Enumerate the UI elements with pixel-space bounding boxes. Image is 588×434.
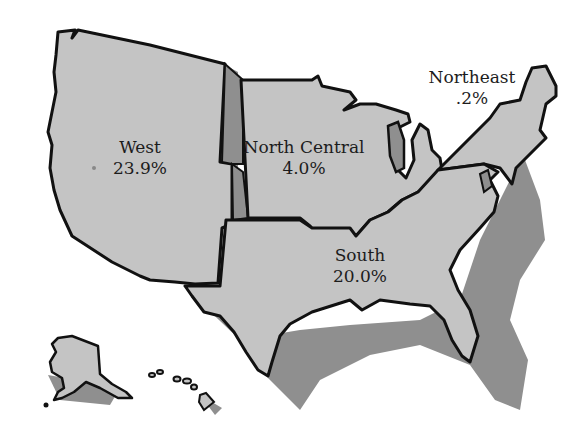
region-value: .2% (422, 88, 522, 109)
map-graphic (0, 0, 588, 434)
label-west: West 23.9% (95, 137, 185, 179)
label-south: South 20.0% (320, 245, 400, 287)
us-region-map: West 23.9% North Central 4.0% Northeast … (0, 0, 588, 434)
region-name: South (320, 245, 400, 266)
region-value: 23.9% (95, 158, 185, 179)
label-northeast: Northeast .2% (422, 67, 522, 109)
label-north-central: North Central 4.0% (234, 137, 374, 179)
region-name: North Central (234, 137, 374, 158)
region-value: 20.0% (320, 266, 400, 287)
region-name: Northeast (422, 67, 522, 88)
region-value: 4.0% (234, 158, 374, 179)
inset-hawaii (149, 370, 214, 410)
region-name: West (95, 137, 185, 158)
